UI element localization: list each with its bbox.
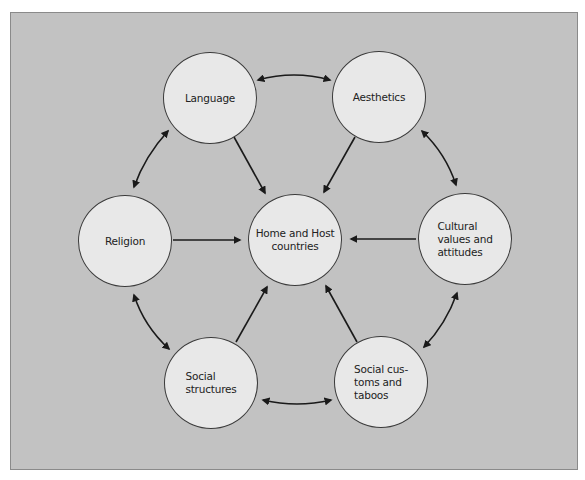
node-label: Aesthetics	[353, 91, 405, 104]
arrow-social-structures-religion	[134, 295, 169, 349]
node-label: Social structures	[185, 370, 236, 396]
node-label: Religion	[105, 235, 145, 248]
arrow-social-customs-to-center	[326, 286, 357, 342]
node-label: Social cus- toms and taboos	[354, 363, 408, 402]
node-label: Language	[185, 92, 235, 105]
arrow-aesthetics-cultural	[422, 131, 456, 185]
arrow-language-aesthetics	[258, 75, 330, 80]
node-religion: Religion	[78, 195, 172, 287]
arrow-aesthetics-to-center	[324, 137, 355, 192]
node-label: Cultural values and attitudes	[437, 220, 492, 259]
node-social-customs: Social cus- toms and taboos	[334, 336, 428, 428]
arrow-cultural-social-customs	[424, 293, 457, 347]
node-label: Home and Host countries	[256, 227, 335, 253]
node-social-structures: Social structures	[164, 337, 258, 429]
arrow-social-structures-to-center	[236, 287, 267, 342]
node-cultural-values: Cultural values and attitudes	[418, 193, 512, 285]
arrow-social-customs-social-structures	[263, 400, 331, 404]
arrow-language-to-center	[234, 137, 265, 193]
node-aesthetics: Aesthetics	[332, 51, 426, 143]
node-language: Language	[163, 52, 257, 144]
node-home-host-countries: Home and Host countries	[248, 194, 342, 286]
arrow-religion-language	[134, 131, 168, 187]
